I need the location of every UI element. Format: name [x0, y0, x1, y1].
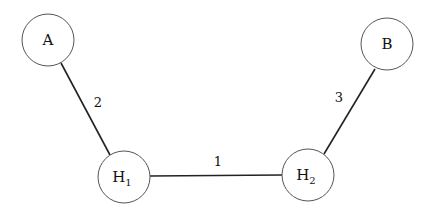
nodes: A B H1 H2 [22, 14, 413, 203]
edge-label-b-h2: 3 [335, 90, 343, 105]
node-h2: H2 [282, 149, 334, 201]
edge-label-h1-h2: 1 [214, 154, 222, 169]
node-a-label: A [42, 31, 54, 49]
node-h1: H1 [98, 151, 150, 203]
network-diagram: 1 2 3 A B H1 H2 [0, 0, 433, 213]
node-b: B [361, 18, 413, 70]
node-b-label: B [381, 35, 392, 53]
node-a: A [22, 14, 74, 66]
edge-label-a-h1: 2 [94, 95, 102, 110]
edge-h1-h2 [150, 175, 282, 176]
edge-b-h2 [324, 69, 375, 154]
edge-a-h1 [61, 63, 110, 155]
